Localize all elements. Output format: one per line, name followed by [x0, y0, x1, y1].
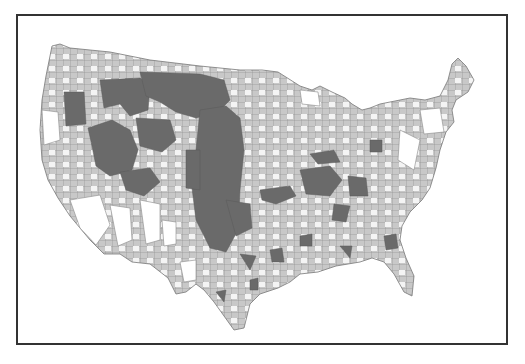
- us-county-map: [0, 0, 525, 364]
